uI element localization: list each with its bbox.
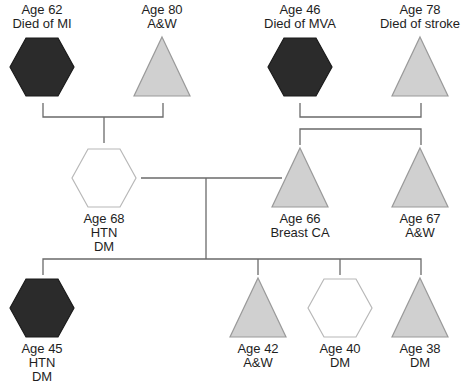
label-line: HTN [83,226,124,240]
label-line: Age 68 [83,212,124,226]
label-line: DM [399,356,440,370]
triangle-icon [392,278,448,337]
label-line: HTN [21,356,62,370]
label-line: A&W [237,356,278,370]
label-line: Breast CA [270,226,329,240]
individual-label-p2: Age 66Breast CA [270,212,329,240]
affected-hexagon-icon [10,279,74,337]
individual-label-gp1: Age 62Died of MI [12,3,71,31]
individual-label-c2: Age 42A&W [237,342,278,370]
individual-label-gp3: Age 46Died of MVA [264,3,336,31]
individual-label-p3: Age 67A&W [399,212,440,240]
label-line: DM [21,370,62,384]
label-line: Died of stroke [380,17,460,31]
label-line: Age 62 [12,3,71,17]
individual-label-c1: Age 45HTNDM [21,342,62,384]
label-line: A&W [141,17,182,31]
label-line: Age 66 [270,212,329,226]
individual-label-p1: Age 68HTNDM [83,212,124,254]
label-line: Age 40 [319,342,360,356]
couple-line-maternal-grandparents [300,103,421,117]
label-line: Age 42 [237,342,278,356]
label-line: Age 45 [21,342,62,356]
label-line: Age 38 [399,342,440,356]
unaffected-hexagon-icon [72,149,136,207]
label-line: DM [83,240,124,254]
individual-label-gp2: Age 80A&W [141,3,182,31]
label-line: Died of MI [12,17,71,31]
sibship-line-children [43,259,421,275]
label-line: Age 46 [264,3,336,17]
pedigree-diagram [0,0,465,391]
unaffected-hexagon-icon [308,279,372,337]
label-line: A&W [399,226,440,240]
triangle-icon [230,278,286,337]
individual-label-c4: Age 38DM [399,342,440,370]
sibship-line-p2-p3 [300,129,421,145]
couple-line-paternal-grandparents [43,103,163,117]
triangle-icon [392,148,448,207]
label-line: Age 67 [399,212,440,226]
label-line: Age 80 [141,3,182,17]
individual-label-gp4: Age 78Died of stroke [380,3,460,31]
label-line: Died of MVA [264,17,336,31]
affected-hexagon-icon [10,38,74,96]
affected-hexagon-icon [268,38,332,96]
triangle-icon [134,37,190,96]
individual-label-c3: Age 40DM [319,342,360,370]
label-line: Age 78 [380,3,460,17]
triangle-icon [392,37,448,96]
label-line: DM [319,356,360,370]
